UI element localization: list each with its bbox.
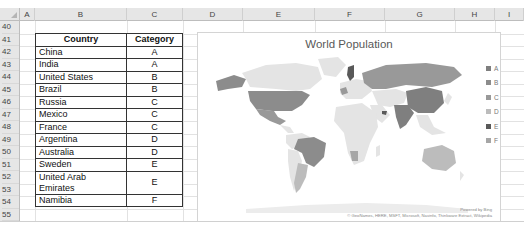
row-header-41[interactable]: 41 [2,34,19,47]
region-china [406,87,444,113]
cell-country[interactable]: Namibia [36,194,127,207]
cell-country[interactable]: Brazil [36,84,127,97]
row-header-54[interactable]: 54 [2,196,19,209]
column-header-e[interactable]: E [243,8,315,21]
table-row: ArgentinaD [36,134,183,147]
row-header-48[interactable]: 48 [2,121,19,134]
cell-category[interactable]: B [127,84,183,97]
cell-country[interactable]: United Arab Emirates [36,171,127,194]
region-namibia [350,151,358,161]
region-japan [444,93,452,105]
table-row: IndiaA [36,59,183,72]
region-central-asia [372,89,408,107]
row-header-46[interactable]: 46 [2,96,19,109]
region-greenland [318,57,346,77]
table-row: AustraliaD [36,146,183,159]
column-header-a[interactable]: A [20,8,35,21]
row-header-47[interactable]: 47 [2,109,19,122]
legend-swatch-icon [486,109,491,114]
region-central-america [280,125,294,133]
column-header-i[interactable]: I [495,8,524,21]
table-row: United Arab EmiratesE [36,171,183,194]
region-alaska [216,75,246,91]
header-country[interactable]: Country [36,34,127,47]
column-header-c[interactable]: C [127,8,183,21]
legend-item-c[interactable]: C [486,90,506,105]
row-header-55[interactable]: 55 [2,209,19,222]
region-madagascar [376,145,380,157]
cell-country[interactable]: France [36,121,127,134]
cell-category[interactable]: A [127,46,183,59]
header-category[interactable]: Category [127,34,183,47]
row-header-52[interactable]: 52 [2,171,19,184]
cell-category[interactable]: C [127,109,183,122]
cell-category[interactable]: A [127,59,183,72]
column-header-b[interactable]: B [35,8,127,21]
row-header-bar: 40 41 42 43 44 45 46 47 48 49 50 51 52 5… [0,21,20,221]
map-attribution: © GeoNames, HERE, MSFT, Microsoft, Navin… [347,213,492,218]
table-row: SwedenE [36,159,183,172]
region-sweden [347,65,354,81]
row-header-53[interactable]: 53 [2,184,19,197]
row-header-50[interactable]: 50 [2,146,19,159]
legend-item-e[interactable]: E [486,119,506,134]
region-se-asia [416,115,446,135]
region-australia [422,145,456,171]
column-header-f[interactable]: F [315,8,385,21]
table-row: RussiaC [36,96,183,109]
map-chart[interactable]: World Population [197,32,501,223]
legend-swatch-icon [486,95,491,100]
cell-category[interactable]: D [127,134,183,147]
legend-item-f[interactable]: F [486,134,506,149]
spreadsheet: A B C D E F G H I 40 41 42 43 44 45 46 4… [0,0,524,232]
legend-swatch-icon [486,80,491,85]
world-map [206,53,468,213]
row-header-42[interactable]: 42 [2,46,19,59]
column-header-h[interactable]: H [455,8,495,21]
legend-item-a[interactable]: A [486,61,506,76]
table-row: MexicoC [36,109,183,122]
column-header-d[interactable]: D [183,8,243,21]
region-russia [362,63,462,89]
legend-swatch-icon [486,66,491,71]
cell-country[interactable]: Argentina [36,134,127,147]
cell-category[interactable]: F [127,194,183,207]
row-header-49[interactable]: 49 [2,134,19,147]
powered-by-label: Powered by Bing [460,207,492,212]
column-header-g[interactable]: G [385,8,455,21]
cell-country[interactable]: United States [36,71,127,84]
row-header-43[interactable]: 43 [2,59,19,72]
chart-title[interactable]: World Population [198,38,500,50]
cell-category[interactable]: B [127,71,183,84]
cell-country[interactable]: Mexico [36,109,127,122]
row-header-45[interactable]: 45 [2,84,19,97]
region-canada [242,63,322,91]
cell-category[interactable]: E [127,159,183,172]
legend-item-b[interactable]: B [486,76,506,91]
table-row: FranceC [36,121,183,134]
cell-country[interactable]: China [36,46,127,59]
table-row: NamibiaF [36,194,183,207]
legend-swatch-icon [486,138,491,143]
region-new-zealand [460,171,464,181]
column-header-bar: A B C D E F G H I [0,8,524,21]
row-header-40[interactable]: 40 [2,21,19,34]
row-header-51[interactable]: 51 [2,159,19,172]
cell-category[interactable]: E [127,171,183,194]
cell-category[interactable]: D [127,146,183,159]
cell-category[interactable]: C [127,121,183,134]
table-row: United StatesB [36,71,183,84]
country-category-table: Country Category ChinaA IndiaA United St… [35,33,183,207]
legend-item-d[interactable]: D [486,105,506,120]
select-all-corner[interactable] [0,8,20,21]
table-row: ChinaA [36,46,183,59]
cell-country[interactable]: Russia [36,96,127,109]
row-header-44[interactable]: 44 [2,71,19,84]
chart-legend: A B C D E F [486,61,506,148]
cell-country[interactable]: Australia [36,146,127,159]
cell-country[interactable]: Sweden [36,159,127,172]
legend-swatch-icon [486,124,491,129]
cell-country[interactable]: India [36,59,127,72]
cell-category[interactable]: C [127,96,183,109]
sheet-bottom-edge [0,221,524,232]
